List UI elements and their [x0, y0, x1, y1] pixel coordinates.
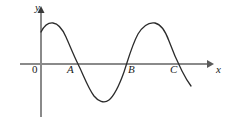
graph-figure: y x 0 A B C	[0, 0, 232, 120]
plot-canvas	[0, 0, 232, 120]
point-label-c: C	[170, 64, 177, 75]
point-label-a: A	[67, 64, 74, 75]
point-label-b: B	[128, 64, 135, 75]
origin-label: 0	[32, 64, 38, 75]
sinusoidal-curve	[41, 23, 191, 102]
y-axis-label: y	[35, 2, 40, 13]
x-axis-arrow-icon	[207, 60, 214, 68]
x-axis-label: x	[216, 64, 221, 75]
